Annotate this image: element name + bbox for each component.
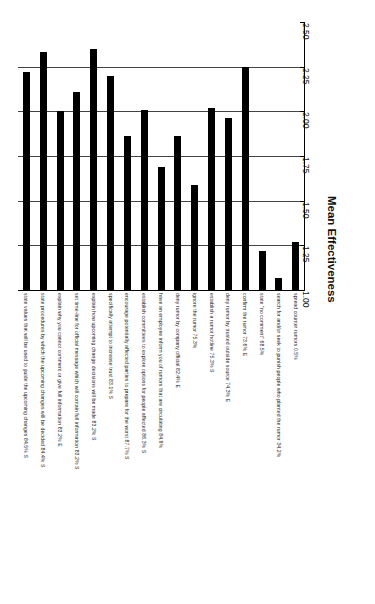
category-label-slot: deny rumor by trusted outside source 74.… <box>220 293 237 593</box>
bar-slot <box>270 22 287 290</box>
category-label: state "no comment" 68.5% <box>259 293 265 355</box>
category-label-slot: state values that will be used to guide … <box>18 293 35 593</box>
axis-tick-label: 2.50 <box>301 23 311 40</box>
bar <box>90 49 97 290</box>
bar <box>225 118 232 290</box>
category-label: ignore the rumor 75.3% <box>192 293 198 348</box>
bar-slot <box>119 22 136 290</box>
bar-slot <box>254 22 271 290</box>
value-axis-title: Mean Effectiveness <box>326 196 338 303</box>
bar-slot <box>153 22 170 290</box>
bar <box>141 110 148 290</box>
axis-tick-label: 1.00 <box>301 291 311 308</box>
category-label: encourage potentially affected parties t… <box>124 293 130 460</box>
bar <box>124 136 131 290</box>
bar <box>107 76 114 290</box>
category-label: search for and/or seek to punish people … <box>276 293 282 457</box>
plot-area <box>18 22 304 290</box>
axis-tick-label: 2.00 <box>301 112 311 129</box>
category-label-slot: search for and/or seek to punish people … <box>270 293 287 593</box>
bar-slot <box>169 22 186 290</box>
category-axis-labels: state values that will be used to guide … <box>18 293 304 593</box>
axis-tick-label: 2.25 <box>301 68 311 85</box>
bar-slot <box>237 22 254 290</box>
bar-slot <box>136 22 153 290</box>
bar <box>158 167 165 290</box>
category-label-slot: explain why you cannot comment or give f… <box>52 293 69 593</box>
category-label: confirm the rumor 73.6% E <box>242 293 248 356</box>
category-label-slot: specifically attempt to increase trust 8… <box>102 293 119 593</box>
bar-series <box>18 22 304 290</box>
category-label-slot: deny rumor by company official 82.4% E <box>169 293 186 593</box>
category-label: deny rumor by trusted outside source 74.… <box>225 293 231 402</box>
category-axis-line <box>18 290 304 291</box>
bar <box>40 52 47 290</box>
category-label: explain why you cannot comment or give f… <box>57 293 63 447</box>
category-label: state values that will be used to guide … <box>23 293 29 458</box>
category-label: deny rumor by company official 82.4% E <box>175 293 181 388</box>
bar-slot <box>68 22 85 290</box>
category-label-slot: encourage potentially affected parties t… <box>119 293 136 593</box>
category-label: state procedures by which the upcoming c… <box>40 293 46 468</box>
bar <box>174 136 181 290</box>
category-label: specifically attempt to increase trust 8… <box>108 293 114 399</box>
axis-tick-label: 1.25 <box>301 246 311 263</box>
category-label: have an employee inform you of rumors th… <box>158 293 164 448</box>
bar-slot <box>186 22 203 290</box>
bar-slot <box>203 22 220 290</box>
category-label: spread counter rumors 0.5% <box>293 293 299 360</box>
bar-slot <box>220 22 237 290</box>
category-label-slot: establish committees to explore options … <box>136 293 153 593</box>
bar <box>191 185 198 290</box>
category-label-slot: set time-line for official message which… <box>68 293 85 593</box>
category-label-slot: state "no comment" 68.5% <box>254 293 271 593</box>
category-label: establish a rumor hotline 75.3% S <box>209 293 215 373</box>
category-label-slot: spread counter rumors 0.5% <box>287 293 304 593</box>
bar-slot <box>85 22 102 290</box>
category-label-slot: ignore the rumor 75.3% <box>186 293 203 593</box>
bar <box>73 92 80 290</box>
bar <box>23 72 30 290</box>
category-label-slot: confirm the rumor 73.6% E <box>237 293 254 593</box>
category-label: explain how upcoming change decisions wi… <box>91 293 97 441</box>
bar <box>259 251 266 290</box>
bar-slot <box>52 22 69 290</box>
bar-slot <box>35 22 52 290</box>
category-label: set time-line for official message which… <box>74 293 80 470</box>
axis-tick-label: 1.75 <box>301 157 311 174</box>
chart-figure: state values that will be used to guide … <box>0 0 375 604</box>
bar-slot <box>18 22 35 290</box>
category-label-slot: establish a rumor hotline 75.3% S <box>203 293 220 593</box>
axis-tick-label: 1.50 <box>301 202 311 219</box>
bar-slot <box>102 22 119 290</box>
category-label-slot: state procedures by which the upcoming c… <box>35 293 52 593</box>
category-label-slot: explain how upcoming change decisions wi… <box>85 293 102 593</box>
bar <box>292 242 299 290</box>
bar <box>57 111 64 290</box>
bar <box>275 278 282 291</box>
bar <box>242 67 249 290</box>
bar <box>208 108 215 290</box>
category-label: establish committees to explore options … <box>141 293 147 453</box>
category-label-slot: have an employee inform you of rumors th… <box>153 293 170 593</box>
